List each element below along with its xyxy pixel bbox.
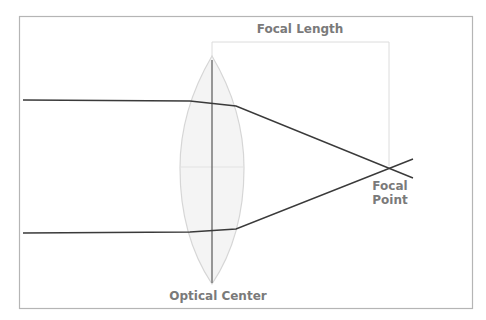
focal-point-label-line1: Focal <box>372 179 407 193</box>
focal-length-label: Focal Length <box>257 22 344 36</box>
optical-center-label: Optical Center <box>169 289 267 303</box>
focal-point-label-line2: Point <box>372 193 408 207</box>
lens-diagram: Focal Length Focal Point Optical Center <box>0 0 486 320</box>
